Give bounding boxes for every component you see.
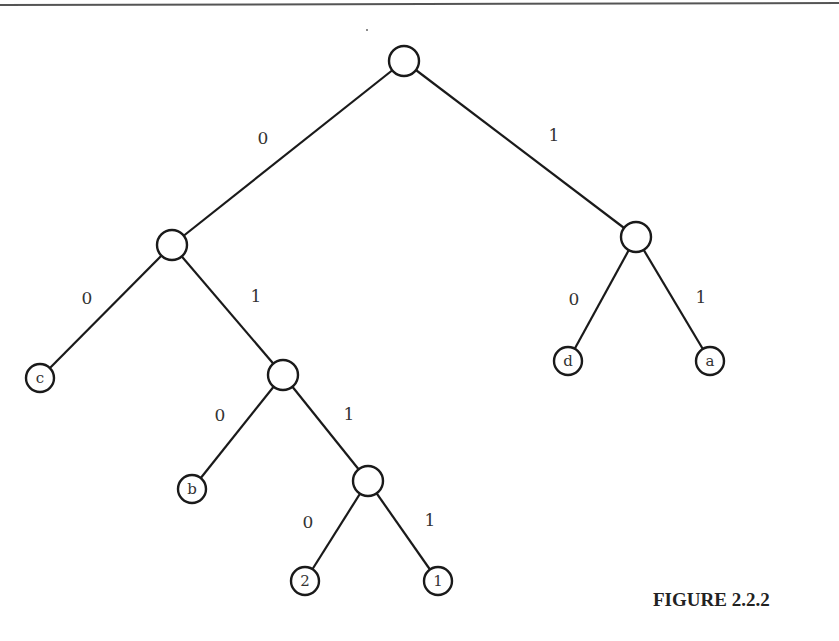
figure-caption: FIGURE 2.2.2 (653, 589, 770, 610)
top-rule-divider (0, 3, 839, 5)
node-label: a (706, 352, 715, 370)
edge-label: 1 (696, 287, 707, 307)
node-circle (268, 360, 298, 390)
node-label: b (187, 480, 197, 498)
leaf-node-b: b (178, 475, 206, 503)
internal-node-root (389, 46, 419, 76)
edge-label: 1 (425, 510, 436, 530)
edge-n0-c (40, 245, 172, 378)
leaf-node-one: 1 (424, 567, 452, 595)
edge-label: 0 (215, 405, 226, 425)
edge-label: 1 (251, 286, 262, 306)
node-label: 2 (300, 572, 310, 590)
node-circle (389, 46, 419, 76)
edge-label: 0 (303, 512, 314, 532)
edge-n011-two (305, 481, 368, 581)
node-label: c (36, 369, 44, 387)
edge-labels-layer: 0101010101 (82, 125, 707, 532)
node-circle (621, 222, 651, 252)
edge-label: 0 (258, 128, 269, 148)
edge-label: 1 (549, 125, 560, 145)
edge-root-n1 (404, 61, 636, 237)
node-circle (157, 230, 187, 260)
leaf-node-d: d (554, 347, 582, 375)
edge-label: 0 (569, 289, 580, 309)
edge-n011-one (368, 481, 438, 581)
scan-speck (366, 29, 368, 31)
leaf-node-two: 2 (291, 567, 319, 595)
internal-node-n011 (353, 466, 383, 496)
internal-node-n0 (157, 230, 187, 260)
leaf-node-a: a (696, 347, 724, 375)
node-circle (353, 466, 383, 496)
internal-node-n01 (268, 360, 298, 390)
nodes-layer: cdab21 (26, 46, 724, 595)
edge-label: 1 (344, 404, 355, 424)
node-label: d (563, 352, 573, 370)
edge-label: 0 (82, 288, 93, 308)
node-label: 1 (433, 572, 443, 590)
binary-code-tree-diagram: 0101010101 cdab21 FIGURE 2.2.2 (0, 0, 839, 641)
edge-n01-b (192, 375, 283, 489)
internal-node-n1 (621, 222, 651, 252)
edge-n01-n011 (283, 375, 368, 481)
edge-n0-n01 (172, 245, 283, 375)
edge-root-n0 (172, 61, 404, 245)
leaf-node-c: c (26, 364, 54, 392)
edges-layer (40, 61, 710, 581)
